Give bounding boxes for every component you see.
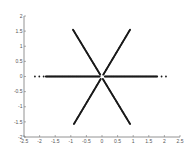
data-point xyxy=(156,76,158,78)
x-axis-ticks: -2.5-2-1.5-1-0.500.511.522.5 xyxy=(20,135,184,144)
x-tick-label: -1.5 xyxy=(51,138,60,144)
data-point xyxy=(100,78,102,80)
x-tick-label: -0.5 xyxy=(82,138,91,144)
data-point xyxy=(99,76,101,78)
y-tick-label: -2 xyxy=(18,134,23,140)
x-tick-label: 0 xyxy=(101,138,104,144)
data-point xyxy=(161,76,163,78)
y-tick-label: 2 xyxy=(20,13,23,19)
y-tick-label: 0 xyxy=(20,73,23,79)
x-tick-label: -1 xyxy=(69,138,74,144)
data-point xyxy=(99,74,101,76)
data-point xyxy=(165,76,167,78)
y-tick-label: -1 xyxy=(18,103,23,109)
data-points xyxy=(34,29,167,125)
y-tick-label: 0.5 xyxy=(16,58,23,64)
series-arm-horizontal xyxy=(34,76,167,78)
y-tick-label: 1 xyxy=(20,43,23,49)
x-tick-label: 2.5 xyxy=(177,138,184,144)
y-tick-label: -1.5 xyxy=(14,119,23,125)
scatter-chart: -2.5-2-1.5-1-0.500.511.522.5 21.510.50-0… xyxy=(0,0,193,157)
data-point xyxy=(129,123,131,125)
x-tick-label: 2 xyxy=(163,138,166,144)
data-point xyxy=(43,76,45,78)
y-tick-label: -0.5 xyxy=(14,88,23,94)
data-point xyxy=(34,76,36,78)
data-point xyxy=(129,29,131,31)
x-tick-label: -2 xyxy=(37,138,42,144)
x-tick-label: 0.5 xyxy=(114,138,121,144)
x-tick-label: 1 xyxy=(132,138,135,144)
data-point xyxy=(38,76,40,78)
y-tick-label: 1.5 xyxy=(16,28,23,34)
x-tick-label: 1.5 xyxy=(145,138,152,144)
